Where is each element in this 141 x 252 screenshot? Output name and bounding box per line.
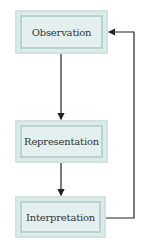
- node-observation-label: Observation: [32, 27, 92, 38]
- node-interpretation: Interpretation: [15, 196, 106, 238]
- node-observation: Observation: [15, 10, 108, 54]
- node-representation-label: Representation: [24, 136, 99, 147]
- node-interpretation-label: Interpretation: [26, 212, 95, 223]
- arrow-interpretation-to-observation: [106, 32, 134, 218]
- node-representation: Representation: [15, 120, 108, 163]
